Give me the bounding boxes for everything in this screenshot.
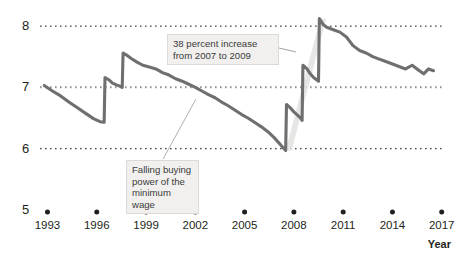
x-axis-title: Year [428, 238, 451, 250]
annotation-increase-callout: 38 percent increase from 2007 to 2009 [167, 34, 279, 65]
y-axis-label-5: 5 [22, 203, 29, 216]
x-axis-label-2017: 2017 [420, 219, 459, 231]
x-axis-label-2002: 2002 [173, 219, 217, 231]
y-axis-label-8: 8 [22, 19, 29, 32]
annotation-falling-callout: Falling buying power of the minimum wage [126, 160, 199, 214]
x-axis-tick-dots [45, 210, 444, 215]
x-axis-label-1993: 1993 [25, 219, 69, 231]
x-axis-label-1996: 1996 [75, 219, 119, 231]
y-axis-label-7: 7 [22, 80, 29, 93]
x-axis-label-1999: 1999 [124, 219, 168, 231]
x-axis-label-2005: 2005 [223, 219, 267, 231]
x-axis-label-2008: 2008 [272, 219, 316, 231]
y-axis-label-6: 6 [22, 142, 29, 155]
x-axis-label-2014: 2014 [370, 219, 414, 231]
x-axis-label-2011: 2011 [321, 219, 365, 231]
